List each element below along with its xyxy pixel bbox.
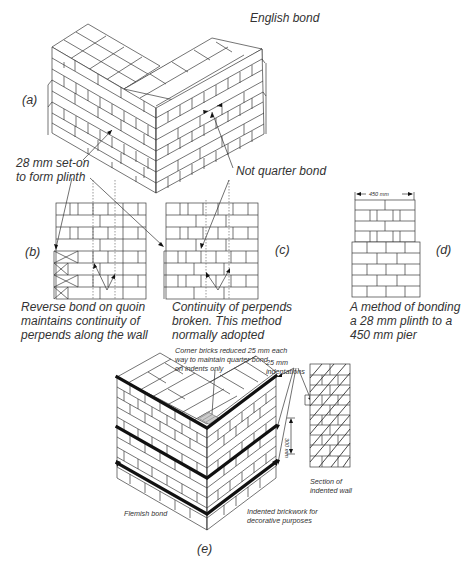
panel-b-caption: Reverse bond on quoin maintains continui…: [21, 301, 148, 342]
panel-e-height-dimension: 300 mm: [284, 438, 290, 458]
panel-b-elevation: [54, 178, 164, 299]
panel-a-label: (a): [22, 93, 37, 107]
panel-a-english-bond-corner: [0, 0, 463, 566]
panel-b-label: (b): [25, 245, 40, 259]
brickwork-bonding-figure: English bond (a) 28 mm set-on to form pl…: [0, 0, 463, 566]
panel-d-dimension: 450 mm: [368, 191, 390, 197]
panel-d-label: (d): [436, 243, 451, 257]
panel-e-indentations-annotation: 25 mm indentations: [266, 358, 305, 376]
panel-e-decorative-annotation: Indented brickwork for decorative purpos…: [247, 507, 318, 525]
panel-d-caption: A method of bonding a 28 mm plinth to a …: [350, 301, 460, 342]
panel-e-wall-section: [305, 364, 350, 467]
panel-e-label: (e): [197, 542, 212, 556]
panel-a-not-quarter-annotation: Not quarter bond: [236, 165, 326, 179]
panel-a-plinth-annotation: 28 mm set-on to form plinth: [16, 157, 89, 185]
panel-e-indented-corner: [116, 353, 312, 530]
panel-e-flemish-annotation: Flemish bond: [124, 509, 167, 518]
panel-d-pier-elevation: [352, 192, 420, 297]
panel-c-label: (c): [275, 243, 290, 257]
panel-e-section-annotation: Section of indented wall: [310, 477, 352, 495]
panel-c-caption: Continuity of perpends broken. This meth…: [172, 301, 292, 342]
panel-c-elevation: [164, 180, 258, 299]
figure-title: English bond: [250, 12, 319, 26]
